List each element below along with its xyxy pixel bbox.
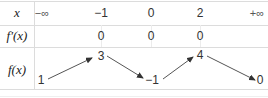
arrow-down-icon	[107, 56, 143, 78]
arrow-up-icon	[163, 57, 193, 79]
variation-arrows	[0, 0, 268, 98]
variation-table: x f′(x) f(x) −∞ −1 0 2 +∞ 0 0 0 1 3 −1 4…	[0, 0, 268, 98]
arrow-up-icon	[48, 58, 92, 79]
arrow-down-icon	[207, 56, 255, 80]
